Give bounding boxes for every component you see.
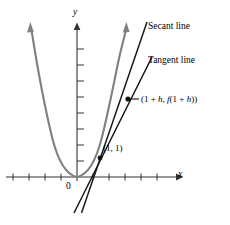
tangent-point-marker [98,156,103,161]
x-axis-label: x [178,170,182,180]
secant-line-label: Secant line [148,22,190,32]
tangent-point-label: (1, 1) [103,144,123,153]
calculus-secant-tangent-figure [0,0,230,225]
secant-endpoint-marker [125,96,130,101]
origin-label: 0 [66,182,71,192]
tangent-line-label: Tangent line [148,56,195,66]
secant-endpoint-label: (1 + h, f(1 + h)) [141,95,197,104]
figure-background [0,0,230,225]
y-axis-label: y [73,8,77,18]
